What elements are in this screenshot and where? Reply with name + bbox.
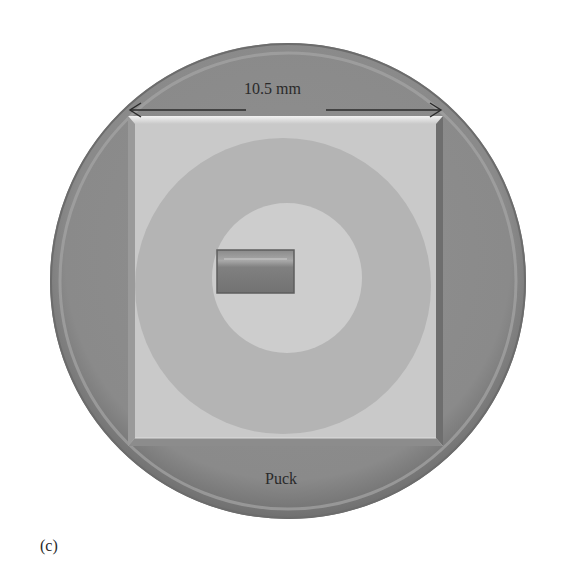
puck-diagram: 10.5 mm Puck (c) <box>0 0 563 583</box>
puck-label: Puck <box>265 470 297 488</box>
panel-label: (c) <box>40 537 58 555</box>
dimension-label: 10.5 mm <box>244 80 301 98</box>
center-chip <box>217 250 294 293</box>
